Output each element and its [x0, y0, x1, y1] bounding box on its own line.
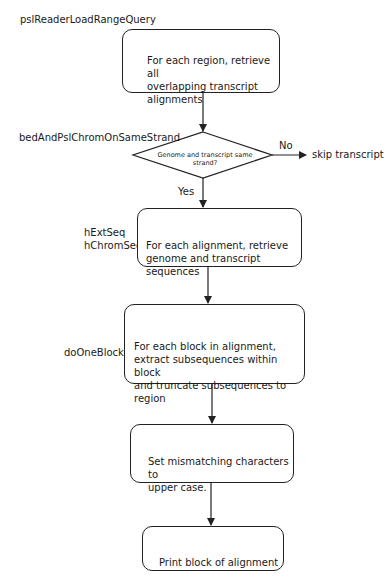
edge-label-yes: Yes [178, 185, 194, 198]
step-print-block-text: Print block of alignment [159, 557, 278, 568]
step-uppercase-mismatches: Set mismatching characters to upper case… [130, 424, 294, 483]
function-label-pslreaderloadrangequery: pslReaderLoadRangeQuery [20, 13, 156, 26]
step-print-block: Print block of alignment [142, 526, 284, 571]
decision-text: Genome and transcript same strand? [150, 151, 260, 167]
skip-transcript: skip transcript [312, 148, 384, 161]
step-retrieve-sequences: For each alignment, retrieve genome and … [137, 208, 302, 267]
function-label-dooneblock: doOneBlock [64, 346, 124, 359]
step-extract-subsequences: For each block in alignment, extract sub… [124, 304, 305, 384]
function-label-bedandpslchromonsamestrand: bedAndPslChromOnSameStrand [19, 131, 180, 144]
flowchart: pslReaderLoadRangeQuery bedAndPslChromOn… [0, 0, 389, 582]
function-label-hextseq-hchromseq: hExtSeq hChromSeq [84, 226, 142, 252]
step-retrieve-alignments: For each region, retrieve all overlappin… [122, 29, 280, 93]
edge-label-no: No [279, 139, 293, 152]
